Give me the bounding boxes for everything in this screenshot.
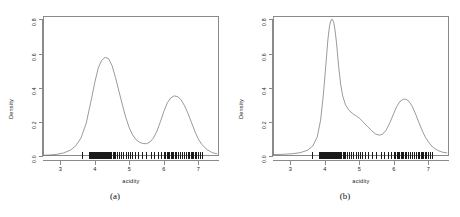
x-tick-mark bbox=[198, 161, 199, 165]
rug-tick bbox=[410, 152, 411, 159]
rug-tick bbox=[198, 152, 199, 159]
panel-a: Density 0.00.20.40.60.8 34567 acidity (a… bbox=[0, 0, 230, 217]
x-tick-mark bbox=[325, 161, 326, 165]
rug-tick bbox=[349, 152, 350, 159]
rug-tick bbox=[347, 152, 348, 159]
rug-tick bbox=[178, 152, 179, 159]
rug-tick bbox=[358, 152, 359, 159]
y-tick-label: 0.2 bbox=[31, 121, 37, 129]
plot-area-a bbox=[43, 16, 219, 156]
x-tick-label: 3 bbox=[289, 166, 292, 172]
rug-tick bbox=[388, 152, 389, 159]
x-axis-title-b: acidity bbox=[273, 178, 449, 184]
rug-tick bbox=[184, 152, 185, 159]
rug-tick bbox=[426, 152, 427, 159]
x-tick-mark bbox=[290, 161, 291, 165]
rug-tick bbox=[351, 152, 352, 159]
rug-tick bbox=[196, 152, 197, 159]
x-axis-spine bbox=[43, 160, 219, 161]
rug-tick bbox=[414, 152, 415, 159]
y-tick-label: 0.4 bbox=[261, 87, 267, 95]
y-tick-label: 0.8 bbox=[261, 19, 267, 27]
rug-tick bbox=[360, 152, 361, 159]
y-tick-label: 0.0 bbox=[261, 155, 267, 163]
rug-tick bbox=[200, 152, 201, 159]
y-axis-title-a: Density bbox=[8, 98, 14, 118]
rug-tick bbox=[376, 152, 377, 159]
y-tick-label: 0.2 bbox=[261, 121, 267, 129]
y-tick-label: 0.4 bbox=[31, 87, 37, 95]
panel-b: Density 0.00.20.40.60.8 34567 acidity (b… bbox=[230, 0, 460, 217]
rug-tick bbox=[117, 152, 118, 159]
rug-plot-b bbox=[273, 152, 449, 159]
x-tick-mark bbox=[60, 161, 61, 165]
y-tick-label: 0.6 bbox=[261, 53, 267, 61]
x-axis-a: 34567 bbox=[43, 160, 219, 168]
x-axis-b: 34567 bbox=[273, 160, 449, 168]
rug-tick bbox=[132, 152, 133, 159]
density-figure: Density 0.00.20.40.60.8 34567 acidity (a… bbox=[0, 0, 460, 217]
x-tick-label: 6 bbox=[162, 166, 165, 172]
plot-area-b bbox=[273, 16, 449, 156]
x-tick-mark bbox=[394, 161, 395, 165]
rug-tick bbox=[381, 152, 382, 159]
x-tick-mark bbox=[428, 161, 429, 165]
rug-tick bbox=[130, 152, 131, 159]
x-tick-mark bbox=[95, 161, 96, 165]
y-axis-title-b: Density bbox=[238, 98, 244, 118]
rug-tick bbox=[128, 152, 129, 159]
x-tick-label: 4 bbox=[93, 166, 96, 172]
x-tick-label: 4 bbox=[323, 166, 326, 172]
rug-tick bbox=[408, 152, 409, 159]
rug-tick bbox=[154, 152, 155, 159]
rug-tick bbox=[186, 152, 187, 159]
density-curve-a bbox=[43, 16, 219, 156]
rug-tick bbox=[82, 152, 83, 159]
rug-tick bbox=[138, 152, 139, 159]
x-tick-label: 5 bbox=[358, 166, 361, 172]
x-axis-title-a: acidity bbox=[43, 178, 219, 184]
rug-tick bbox=[391, 152, 392, 159]
rug-tick bbox=[312, 152, 313, 159]
rug-tick bbox=[362, 152, 363, 159]
x-tick-label: 7 bbox=[427, 166, 430, 172]
rug-tick bbox=[356, 152, 357, 159]
rug-tick bbox=[119, 152, 120, 159]
rug-tick bbox=[151, 152, 152, 159]
x-tick-mark bbox=[164, 161, 165, 165]
rug-tick bbox=[121, 152, 122, 159]
rug-tick bbox=[123, 152, 124, 159]
rug-tick bbox=[142, 152, 143, 159]
rug-tick bbox=[182, 152, 183, 159]
x-tick-label: 3 bbox=[59, 166, 62, 172]
y-tick-label: 0.8 bbox=[31, 19, 37, 27]
x-tick-label: 7 bbox=[197, 166, 200, 172]
rug-tick bbox=[365, 152, 366, 159]
y-tick-label: 0.6 bbox=[31, 53, 37, 61]
x-tick-label: 5 bbox=[128, 166, 131, 172]
rug-tick bbox=[372, 152, 373, 159]
rug-tick bbox=[416, 152, 417, 159]
rug-tick bbox=[384, 152, 385, 159]
rug-tick bbox=[432, 152, 433, 159]
rug-tick bbox=[412, 152, 413, 159]
rug-tick bbox=[430, 152, 431, 159]
rug-tick bbox=[135, 152, 136, 159]
subfigure-caption-b: (b) bbox=[230, 191, 460, 201]
rug-tick bbox=[126, 152, 127, 159]
subfigure-caption-a: (a) bbox=[0, 191, 230, 201]
density-curve-b bbox=[273, 16, 449, 156]
x-tick-label: 6 bbox=[392, 166, 395, 172]
x-tick-mark bbox=[359, 161, 360, 165]
y-tick-label: 0.0 bbox=[31, 155, 37, 163]
rug-tick bbox=[368, 152, 369, 159]
x-tick-mark bbox=[129, 161, 130, 165]
rug-tick bbox=[161, 152, 162, 159]
rug-tick bbox=[146, 152, 147, 159]
rug-tick bbox=[353, 152, 354, 159]
rug-tick bbox=[428, 152, 429, 159]
rug-tick bbox=[202, 152, 203, 159]
rug-tick bbox=[158, 152, 159, 159]
rug-plot-a bbox=[43, 152, 219, 159]
x-axis-spine bbox=[273, 160, 449, 161]
